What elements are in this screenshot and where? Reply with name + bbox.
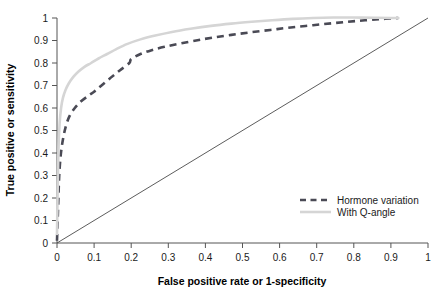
- y-axis-title: True positive or sensitivity: [4, 64, 16, 197]
- y-tick-label: 0: [42, 238, 48, 249]
- x-tick-label: 1: [425, 252, 431, 263]
- y-tick-label: 0.5: [34, 125, 48, 136]
- y-tick-label: 0.3: [34, 170, 48, 181]
- y-tick-label: 0.7: [34, 80, 48, 91]
- x-tick-label: 0.9: [384, 252, 398, 263]
- y-tick-label: 0.1: [34, 215, 48, 226]
- chart-legend: Hormone variation With Q-angle: [300, 195, 419, 218]
- x-tick-label: 0.1: [87, 252, 101, 263]
- roc-curve-figure: 00.10.20.30.40.50.60.70.80.91 00.10.20.3…: [0, 0, 437, 293]
- roc-chart-canvas: 00.10.20.30.40.50.60.70.80.91 00.10.20.3…: [0, 0, 437, 293]
- y-tick-label: 0.6: [34, 103, 48, 114]
- y-tick-label: 0.2: [34, 193, 48, 204]
- y-tick-label: 0.9: [34, 35, 48, 46]
- y-tick-label: 0.8: [34, 58, 48, 69]
- x-tick-label: 0.4: [198, 252, 212, 263]
- x-tick-label: 0.3: [161, 252, 175, 263]
- y-tick-label: 1: [42, 13, 48, 24]
- legend-label-with-q-angle: With Q-angle: [337, 207, 396, 218]
- x-tick-label: 0.5: [236, 252, 250, 263]
- y-tick-label: 0.4: [34, 148, 48, 159]
- y-axis-ticks: 00.10.20.30.40.50.60.70.80.91: [34, 13, 57, 249]
- x-tick-label: 0.6: [273, 252, 287, 263]
- x-tick-label: 0.8: [347, 252, 361, 263]
- x-tick-label: 0: [54, 252, 60, 263]
- x-axis-ticks: 00.10.20.30.40.50.60.70.80.91: [54, 243, 431, 263]
- legend-label-hormone-variation: Hormone variation: [337, 195, 419, 206]
- x-tick-label: 0.2: [124, 252, 138, 263]
- x-tick-label: 0.7: [310, 252, 324, 263]
- x-axis-title: False positive rate or 1-specificity: [158, 275, 327, 287]
